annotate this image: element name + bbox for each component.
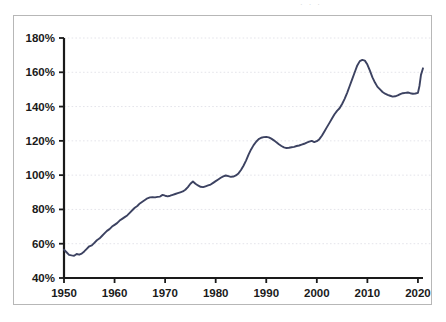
x-axis-tick-label: 1990 <box>253 287 279 299</box>
line-chart: 180%160%140%120%100%80%60%40% 1950196019… <box>14 16 433 306</box>
y-axis-tick-label: 120% <box>26 135 55 147</box>
chart-plot-area: 180%160%140%120%100%80%60%40% 1950196019… <box>14 16 433 306</box>
gridlines-group <box>64 38 431 244</box>
y-axis-tick-label: 140% <box>26 101 55 113</box>
axis-ticks-group <box>59 38 418 283</box>
x-axis-tick-label: 2010 <box>355 287 381 299</box>
x-axis-tick-label: 2000 <box>304 287 330 299</box>
chart-figure-frame: 180%160%140%120%100%80%60%40% 1950196019… <box>13 15 432 305</box>
y-axis-tick-label: 60% <box>32 238 55 250</box>
y-axis-tick-label: 160% <box>26 66 55 78</box>
x-axis-labels-group: 19501960197019801990200020102020 <box>51 287 431 299</box>
x-axis-tick-label: 2020 <box>405 287 431 299</box>
y-axis-tick-label: 180% <box>26 32 55 44</box>
y-axis-labels-group: 180%160%140%120%100%80%60%40% <box>26 32 55 284</box>
y-axis-tick-label: 80% <box>32 203 55 215</box>
y-axis-tick-label: 100% <box>26 169 55 181</box>
top-edge-text-remnant: · · · <box>300 0 446 10</box>
data-series-line <box>64 60 423 256</box>
y-axis-tick-label: 40% <box>32 272 55 284</box>
x-axis-tick-label: 1970 <box>152 287 178 299</box>
x-axis-tick-label: 1950 <box>51 287 77 299</box>
x-axis-tick-label: 1960 <box>102 287 128 299</box>
x-axis-tick-label: 1980 <box>203 287 229 299</box>
